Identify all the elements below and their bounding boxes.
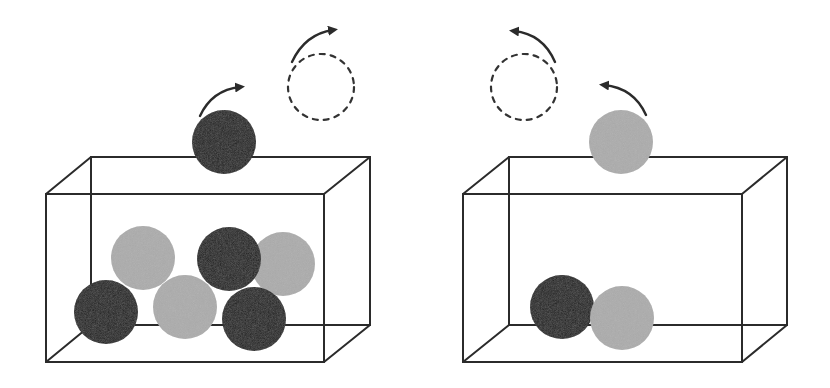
black-ball — [530, 275, 594, 339]
right-panel — [463, 31, 787, 362]
gray-ball — [153, 275, 217, 339]
dashed-ghost-circle — [288, 54, 354, 120]
box-depth-edge-bottom-right — [742, 325, 787, 362]
box-depth-edge-top-right — [324, 157, 370, 194]
black-ball — [74, 280, 138, 344]
left-panel — [46, 30, 370, 362]
dashed-ghost-circle — [491, 54, 557, 120]
black-ball — [222, 287, 286, 351]
balls-in-box — [530, 275, 654, 350]
gray-ball — [111, 226, 175, 290]
curved-left-arrow-icon — [514, 31, 555, 62]
balls-in-box — [74, 226, 315, 351]
box-depth-edge-top-right — [742, 157, 787, 194]
gray-ball — [590, 286, 654, 350]
escaping-black-ball — [192, 110, 256, 174]
box-depth-edge-bottom-left — [463, 325, 509, 362]
box-depth-edge-top-left — [463, 157, 509, 194]
box-depth-edge-top-left — [46, 157, 91, 194]
box-depth-edge-bottom-right — [324, 325, 370, 362]
escaping-gray-ball — [589, 110, 653, 174]
curved-right-arrow-icon — [292, 30, 333, 62]
diagram-canvas — [0, 0, 830, 388]
black-ball — [197, 227, 261, 291]
